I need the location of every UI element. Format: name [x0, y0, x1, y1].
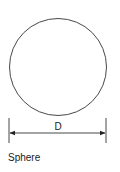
left-arrowhead-icon [10, 131, 16, 135]
caption: Sphere [8, 152, 40, 163]
dimension-label: D [53, 121, 63, 132]
right-arrowhead-icon [100, 131, 106, 135]
sphere-outline [10, 19, 107, 116]
sphere-diagram [0, 0, 120, 172]
